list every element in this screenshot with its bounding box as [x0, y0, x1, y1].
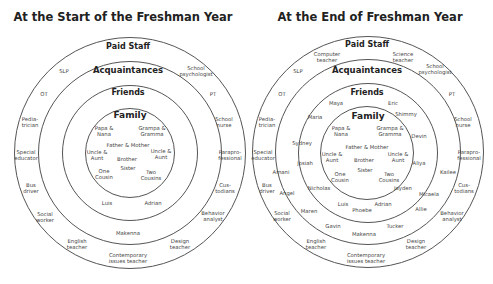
acquaintance: Amani: [273, 169, 290, 175]
family-label: Family: [113, 110, 146, 120]
paid-staff-member: Social worker: [36, 211, 54, 224]
family-member: Papa & Nana: [332, 125, 351, 138]
diagram-title: At the End of Freshman Year: [247, 10, 493, 24]
family-member: Uncle & Aunt: [151, 148, 172, 161]
paid-staff-member: Design teacher: [170, 238, 190, 251]
paid-staff-member: Science teacher: [393, 51, 414, 64]
friends-label: Friends: [350, 88, 383, 97]
paid-staff-member: School nurse: [215, 116, 233, 129]
diagram-title: At the Start of the Freshman Year: [0, 10, 246, 24]
paid-staff-member: Social worker: [273, 210, 291, 223]
friend: Devin: [411, 133, 426, 139]
friend: Luis: [102, 200, 112, 206]
friend: Josiah: [297, 160, 313, 166]
family-member: Two Cousins: [141, 169, 162, 182]
family-member: Brother: [117, 156, 137, 162]
family-member: Uncle & Aunt: [322, 151, 343, 164]
paid-staff-member: Pedia- trician: [259, 116, 276, 129]
friend: Shimmy: [395, 111, 417, 117]
friend: Maya: [329, 100, 343, 106]
end-of-freshman-year-diagram: At the End of Freshman Year Paid Staff A…: [247, 0, 493, 284]
family-member: Uncle & Aunt: [87, 149, 108, 162]
acquaintances-label: Acquaintances: [93, 65, 163, 75]
family-label: Family: [351, 111, 384, 121]
family-member: Grampa & Gramma: [138, 125, 165, 138]
paid-staff-label: Paid Staff: [106, 42, 150, 51]
paid-staff-member: OT: [40, 91, 47, 97]
paid-staff-member: Computer teacher: [314, 51, 340, 64]
family-member: Sister: [120, 165, 135, 171]
friends-label: Friends: [111, 88, 144, 97]
paid-staff-member: Contemporary issues teacher: [109, 252, 147, 265]
paid-staff-member: Bus driver: [259, 182, 275, 195]
paid-staff-member: School psychologist: [179, 65, 212, 78]
family-member: Uncle & Aunt: [388, 151, 409, 164]
friend: Jayden: [394, 185, 412, 191]
paid-staff-member: Special educator: [14, 149, 38, 162]
paid-staff-label: Paid Staff: [345, 40, 389, 49]
friend: Aliya: [413, 160, 426, 166]
family-member: Father & Mother: [107, 142, 150, 148]
family-member: Sister: [357, 167, 372, 173]
friend: Adrian: [374, 201, 391, 207]
acquaintance: Gavin: [325, 223, 340, 229]
friend: Nicholas: [308, 185, 330, 191]
paid-staff-member: School nurse: [454, 116, 472, 129]
paid-staff-member: English teacher: [67, 238, 87, 251]
friend: Eric: [388, 100, 398, 106]
paid-staff-member: Parapro- fessional: [218, 149, 241, 162]
friend: Phoebe: [352, 207, 372, 213]
paid-staff-member: PT: [210, 91, 216, 97]
acquaintance: Makenna: [116, 230, 140, 236]
family-member: Father & Mother: [346, 144, 389, 150]
paid-staff-member: English teacher: [306, 238, 326, 251]
family-member: Brother: [354, 157, 374, 163]
paid-staff-member: SLP: [59, 68, 69, 74]
friend: Adrian: [144, 200, 161, 206]
acquaintance: Allie: [415, 206, 426, 212]
acquaintance: Tucker: [386, 223, 403, 229]
paid-staff-member: Contemporary issues teacher: [347, 252, 385, 265]
paid-staff-member: Special educator: [251, 149, 275, 162]
acquaintance: Maren: [301, 208, 318, 214]
family-member: One Cousin: [95, 168, 113, 181]
paid-staff-member: Behavior analyst: [201, 210, 225, 223]
family-member: One Cousin: [331, 171, 349, 184]
paid-staff-member: OT: [278, 91, 285, 97]
paid-staff-member: SLP: [293, 68, 303, 74]
friend: Sydney: [292, 140, 312, 146]
paid-staff-member: Cus- todians: [215, 182, 235, 195]
paid-staff-member: Bus driver: [23, 182, 39, 195]
paid-staff-member: School psychologist: [418, 63, 451, 76]
acquaintance: Micaela: [419, 191, 439, 197]
family-member: Grampa & Gramma: [376, 125, 403, 138]
paid-staff-member: Parapro- fessional: [457, 149, 480, 162]
family-member: Two Cousins: [379, 171, 400, 184]
paid-staff-member: Pedia- trician: [22, 116, 39, 129]
acquaintance: Kailee: [440, 169, 456, 175]
acquaintance: Makenna: [352, 231, 376, 237]
friend: Maria: [308, 114, 323, 120]
start-of-freshman-year-diagram: At the Start of the Freshman Year Paid S…: [0, 0, 246, 284]
friend: Luis: [338, 201, 348, 207]
acquaintances-label: Acquaintances: [332, 65, 402, 75]
family-member: Papa & Nana: [95, 125, 114, 138]
paid-staff-member: Behavior analyst: [440, 210, 464, 223]
paid-staff-member: PT: [449, 91, 455, 97]
paid-staff-member: Design teacher: [406, 238, 426, 251]
acquaintance: Angel: [279, 190, 294, 196]
paid-staff-member: Cus- todians: [454, 182, 474, 195]
